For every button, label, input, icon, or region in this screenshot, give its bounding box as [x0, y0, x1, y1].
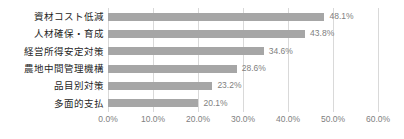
- category-axis: 資材コスト低減 人材確保・育成 経営所得安定対策 農地中間管理機構 品目別対策 …: [0, 8, 104, 112]
- bar: [108, 30, 305, 38]
- bar-chart: 資材コスト低減 人材確保・育成 経営所得安定対策 農地中間管理機構 品目別対策 …: [0, 0, 404, 139]
- bar: [108, 47, 264, 55]
- bar: [108, 82, 212, 90]
- category-label: 経営所得安定対策: [0, 43, 104, 60]
- category-label: 多面的支払: [0, 95, 104, 112]
- category-label: 農地中間管理機構: [0, 60, 104, 77]
- bar-row: 20.1%: [108, 95, 378, 112]
- bar-row: 43.8%: [108, 25, 378, 42]
- bar: [108, 13, 324, 21]
- bar-value-label: 34.6%: [269, 45, 293, 57]
- x-tick-label: 10.0%: [141, 113, 165, 125]
- x-tick-label: 60.0%: [366, 113, 390, 125]
- bar-row: 34.6%: [108, 43, 378, 60]
- category-label: 資材コスト低減: [0, 8, 104, 25]
- bar: [108, 99, 198, 107]
- bar-value-label: 28.6%: [242, 62, 266, 74]
- x-tick-label: 50.0%: [321, 113, 345, 125]
- x-tick-label: 0.0%: [98, 113, 117, 125]
- gridline-60: [378, 8, 379, 112]
- bar-value-label: 20.1%: [203, 97, 227, 109]
- x-axis: 0.0% 10.0% 20.0% 30.0% 40.0% 50.0% 60.0%: [108, 112, 378, 128]
- plot-area: 48.1% 43.8% 34.6% 28.6% 23.2% 20.1%: [108, 8, 378, 112]
- bar-value-label: 43.8%: [310, 27, 334, 39]
- bar-row: 28.6%: [108, 60, 378, 77]
- category-label: 人材確保・育成: [0, 25, 104, 42]
- bar-value-label: 48.1%: [329, 10, 353, 22]
- x-tick-label: 30.0%: [231, 113, 255, 125]
- bar-row: 23.2%: [108, 77, 378, 94]
- category-label: 品目別対策: [0, 77, 104, 94]
- x-tick-label: 40.0%: [276, 113, 300, 125]
- bar: [108, 65, 237, 73]
- x-tick-label: 20.0%: [186, 113, 210, 125]
- bar-row: 48.1%: [108, 8, 378, 25]
- bar-value-label: 23.2%: [217, 79, 241, 91]
